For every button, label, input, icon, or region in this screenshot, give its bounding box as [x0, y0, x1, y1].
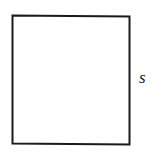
- square-diagram: s: [0, 0, 163, 154]
- side-length-label: s: [139, 69, 146, 86]
